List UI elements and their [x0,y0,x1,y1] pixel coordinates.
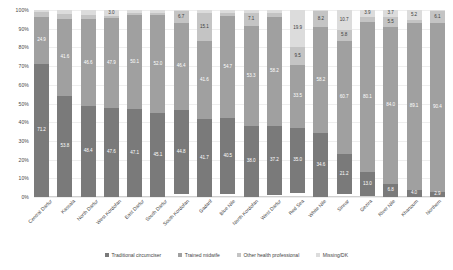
x-axis-tick-label: Northern [424,198,442,216]
bar-column[interactable]: 1.615.141.641.7 [197,10,212,197]
bar-segment[interactable]: 54.7 [220,16,235,118]
bar-segment[interactable]: 58.2 [313,27,328,134]
bar-column[interactable]: 10.75.860.721.2 [337,10,352,197]
bar-segment[interactable]: 47.6 [104,108,119,197]
bar-column[interactable]: 19.99.533.535.0 [290,10,305,197]
bar-segment-value-label: 84.0 [386,103,395,108]
legend-item[interactable]: Missing/DK [316,252,348,258]
bar-segment-value-label: 41.6 [200,78,209,83]
bar-segment[interactable]: 40.5 [220,118,235,194]
bar-segment-value-label: 5.2 [411,13,417,18]
bar-segment-value-label: 46.6 [84,61,93,66]
bar-column[interactable]: 3.01.547.947.6 [104,10,119,197]
bar-column[interactable]: 0.66.190.42.9 [430,10,445,197]
bar-segment[interactable]: 38.0 [244,126,259,197]
bar-segment[interactable]: 53.8 [57,96,72,197]
bar-segment[interactable]: 9.5 [290,47,305,65]
bar-segment-value-label: 38.0 [247,159,256,164]
bar-segment[interactable]: 7.1 [244,13,259,26]
bar-segment[interactable]: 41.6 [197,41,212,119]
bar-segment[interactable]: 8.2 [313,11,328,26]
bar-column[interactable]: 2.12.541.653.8 [57,10,72,197]
bar-segment[interactable]: 80.1 [360,22,375,172]
bar-segment[interactable]: 58.2 [267,17,282,126]
bar-segment[interactable]: 44.8 [174,110,189,194]
legend-item[interactable]: Trained midwife [178,252,220,258]
bar-segment[interactable]: 24.9 [34,17,49,64]
bar-segment[interactable]: 4.0 [407,190,422,197]
bar-segment[interactable]: 41.6 [57,19,72,97]
bar-segment[interactable]: 6.1 [430,11,445,22]
x-axis-tick-label: Blue Nile [218,198,236,216]
bar-segment[interactable]: 6.7 [174,11,189,24]
bar-segment[interactable]: 60.7 [337,41,352,155]
bar-segment[interactable]: 84.0 [383,27,398,184]
bar-segment-value-label: 58.2 [270,69,279,74]
bar-segment[interactable]: 71.2 [34,64,49,197]
bar-segment[interactable]: 90.4 [430,23,445,192]
bar-segment[interactable]: 46.4 [174,23,189,110]
bar-segment[interactable]: 50.1 [127,15,142,109]
bar-segment[interactable]: 6.8 [383,184,398,197]
bar-segment-value-label: 19.9 [293,26,302,31]
bar-segment[interactable]: 5.5 [383,17,398,27]
bar-segment[interactable]: 45.1 [150,113,165,197]
plot-area: 1.32.624.971.22.12.541.653.82.52.546.648… [34,10,445,197]
bar-segment[interactable]: 47.1 [127,109,142,197]
legend-item[interactable]: Other health professional [237,252,299,258]
legend-label: Other health professional [243,252,299,258]
bar-segment-value-label: 21.2 [340,172,349,177]
bar-column[interactable]: 1.41.450.147.1 [127,10,142,197]
bar-segment[interactable]: 13.0 [360,172,375,196]
stacked-bar-chart: 0%10%20%30%40%50%60%70%80%90%100% 1.32.6… [0,0,453,270]
bar-segment-value-label: 6.1 [434,15,440,20]
legend-swatch-icon [316,253,320,257]
bar-segment-value-label: 6.7 [178,15,184,20]
bar-column[interactable]: 0.88.258.234.6 [313,10,328,197]
bar-column[interactable]: 1.51.754.740.5 [220,10,235,197]
bar-segment-value-label: 15.1 [200,25,209,30]
bar-column[interactable]: 3.75.584.06.8 [383,10,398,197]
bar-segment[interactable]: 53.3 [244,26,259,126]
y-axis-tick-label: 40% [19,119,30,125]
x-axis-tick-label: Central Darfur [27,198,53,224]
bar-column[interactable]: 1.52.158.237.2 [267,10,282,197]
bar-segment[interactable]: 37.2 [267,126,282,196]
y-axis-tick-label: 70% [19,63,30,69]
bar-segment[interactable]: 48.4 [81,106,96,197]
bar-segment[interactable]: 15.1 [197,13,212,41]
bar-segment-value-label: 5.8 [341,33,347,38]
bar-segment[interactable]: 3.7 [383,10,398,17]
bar-segment[interactable]: 35.0 [290,128,305,193]
bar-segment[interactable]: 46.6 [81,19,96,106]
bar-segment[interactable]: 5.2 [407,10,422,20]
bar-segment[interactable]: 33.5 [290,65,305,128]
bar-segment-value-label: 60.7 [340,95,349,100]
y-axis-tick-label: 90% [19,26,30,32]
bar-segment-value-label: 3.7 [388,11,394,16]
bar-segment[interactable]: 41.7 [197,119,212,197]
chart-legend: Traditional circumciserTrained midwifeOt… [0,252,453,258]
bar-column[interactable]: 1.32.624.971.2 [34,10,49,197]
bar-segment[interactable]: 2.9 [430,192,445,197]
x-axis-tick-label: Sinnar [336,198,350,212]
legend-label: Trained midwife [185,252,220,258]
bar-segment[interactable]: 21.2 [337,154,352,194]
legend-item[interactable]: Traditional circumciser [105,252,161,258]
bar-segment[interactable]: 3.9 [360,10,375,17]
bar-column[interactable]: 0.46.746.444.8 [174,10,189,197]
bar-segment-value-label: 54.7 [223,65,232,70]
bar-segment[interactable]: 89.1 [407,23,422,190]
bar-column[interactable]: 1.57.153.338.0 [244,10,259,197]
bar-segment[interactable]: 10.7 [337,10,352,30]
bar-segment[interactable]: 47.9 [104,18,119,108]
bar-segment[interactable]: 34.6 [313,133,328,197]
bar-column[interactable]: 1.21.452.045.1 [150,10,165,197]
bar-segment[interactable]: 19.9 [290,10,305,47]
bar-segment[interactable]: 5.8 [337,30,352,41]
bar-segment[interactable]: 52.0 [150,15,165,112]
bar-column[interactable]: 5.21.789.14.0 [407,10,422,197]
bar-column[interactable]: 3.92.780.113.0 [360,10,375,197]
bar-column[interactable]: 2.52.546.648.4 [81,10,96,197]
bar-segment-value-label: 52.0 [154,62,163,67]
